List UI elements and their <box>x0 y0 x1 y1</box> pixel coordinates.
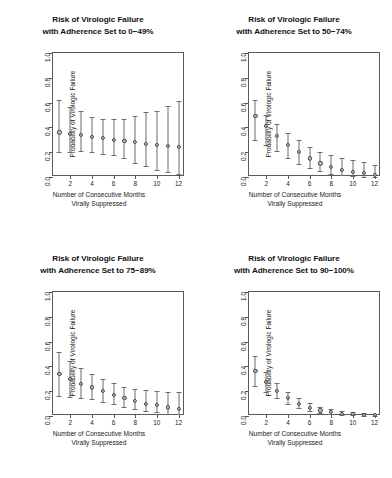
x-axis-tick <box>92 414 93 418</box>
x-axis-tick <box>331 175 332 179</box>
error-bar-cap-upper <box>68 107 73 108</box>
error-bar-cap-lower <box>100 154 105 155</box>
data-point-marker <box>297 150 301 154</box>
error-bar-cap-upper <box>122 119 127 120</box>
error-bar-cap-lower <box>79 151 84 152</box>
error-bar-cap-lower <box>100 402 105 403</box>
data-point-marker <box>286 143 290 147</box>
data-point-marker <box>155 143 159 147</box>
error-bar-cap-lower <box>329 174 334 175</box>
x-axis-tick <box>266 175 267 179</box>
data-point-marker <box>90 385 94 389</box>
error-bar-cap-lower <box>285 404 290 405</box>
error-bar-cap-upper <box>57 100 62 101</box>
error-bar-cap-lower <box>154 412 159 413</box>
error-bar-cap-upper <box>264 115 269 116</box>
error-bar-line <box>59 100 60 153</box>
error-bar-cap-upper <box>144 112 149 113</box>
data-point-marker <box>90 135 94 139</box>
error-bar-line <box>70 107 71 152</box>
data-point-marker <box>133 140 137 144</box>
x-axis-tick <box>157 414 158 418</box>
error-bar-cap-lower <box>144 166 149 167</box>
error-bar-cap-lower <box>318 171 323 172</box>
x-axis-tick <box>157 175 158 179</box>
x-axis-tick <box>70 175 71 179</box>
error-bar-cap-lower <box>68 397 73 398</box>
error-bar-cap-upper <box>165 106 170 107</box>
data-point-marker <box>111 393 115 397</box>
plot-area: Probability of Virologic Failure0.00.20.… <box>52 291 184 415</box>
error-bar-cap-upper <box>79 111 84 112</box>
error-bar-cap-upper <box>154 391 159 392</box>
error-bar-cap-lower <box>372 177 377 178</box>
error-bar-cap-lower <box>350 176 355 177</box>
error-bar-cap-lower <box>122 158 127 159</box>
plot-area: Probability of Virologic Failure0.00.20.… <box>52 52 184 176</box>
error-bar-cap-lower <box>133 409 138 410</box>
error-bar-cap-upper <box>154 111 159 112</box>
error-bar-line <box>167 392 168 414</box>
x-axis-label: Number of Consecutive Months Virally Sup… <box>197 429 392 447</box>
data-point-marker <box>57 130 61 134</box>
error-bar-cap-upper <box>133 389 138 390</box>
error-bar-cap-lower <box>253 140 258 141</box>
data-point-marker <box>57 372 61 376</box>
error-bar-cap-lower <box>275 151 280 152</box>
data-point-marker <box>122 139 126 143</box>
error-bar-cap-upper <box>340 158 345 159</box>
error-bar-cap-upper <box>100 379 105 380</box>
x-axis-tick <box>135 175 136 179</box>
data-point-marker <box>362 171 366 175</box>
error-bar-cap-lower <box>133 163 138 164</box>
panel-bottom-right: Risk of Virologic Failure with Adherence… <box>196 239 392 478</box>
error-bar-line <box>81 111 82 151</box>
panel-title: Risk of Virologic Failure with Adherence… <box>196 253 392 276</box>
error-bar-cap-upper <box>350 160 355 161</box>
error-bar-cap-upper <box>57 352 62 353</box>
panel-title: Risk of Virologic Failure with Adherence… <box>196 14 392 37</box>
error-bar-line <box>178 101 179 174</box>
panel-title: Risk of Virologic Failure with Adherence… <box>0 253 196 276</box>
x-axis-tick <box>179 175 180 179</box>
error-bar-cap-lower <box>253 386 258 387</box>
data-point-marker <box>176 406 180 410</box>
data-point-marker <box>79 382 83 386</box>
error-bar-cap-upper <box>285 392 290 393</box>
x-axis-tick <box>114 175 115 179</box>
panel-title: Risk of Virologic Failure with Adherence… <box>0 14 196 37</box>
error-bar-cap-lower <box>307 411 312 412</box>
error-bar-line <box>266 115 267 145</box>
error-bar-cap-lower <box>165 414 170 415</box>
data-point-marker <box>144 141 148 145</box>
error-bar-cap-upper <box>329 155 334 156</box>
data-point-marker <box>307 156 311 160</box>
error-bar-cap-lower <box>111 404 116 405</box>
panel-top-right: Risk of Virologic Failure with Adherence… <box>196 0 392 239</box>
data-point-marker <box>133 398 137 402</box>
error-bar-line <box>146 390 147 411</box>
error-bar-cap-upper <box>275 124 280 125</box>
error-bar-cap-lower <box>296 408 301 409</box>
error-bar-cap-upper <box>307 147 312 148</box>
data-point-marker <box>297 402 301 406</box>
error-bar-cap-lower <box>264 392 269 393</box>
error-bar-line <box>146 112 147 167</box>
x-axis-label: Number of Consecutive Months Virally Sup… <box>197 190 392 208</box>
error-bar-cap-lower <box>79 398 84 399</box>
data-point-marker <box>79 133 83 137</box>
error-bar-cap-lower <box>329 414 334 415</box>
error-bar-cap-lower <box>275 398 280 399</box>
error-bar-cap-lower <box>264 145 269 146</box>
error-bar-cap-upper <box>372 165 377 166</box>
error-bar-cap-upper <box>176 101 181 102</box>
data-point-marker <box>318 161 322 165</box>
error-bar-cap-upper <box>361 162 366 163</box>
panel-top-left: Risk of Virologic Failure with Adherence… <box>0 0 196 239</box>
error-bar-cap-upper <box>296 398 301 399</box>
error-bar-line <box>167 106 168 172</box>
error-bar-cap-upper <box>79 368 84 369</box>
error-bar-cap-lower <box>176 174 181 175</box>
error-bar-cap-upper <box>165 392 170 393</box>
error-bar-cap-lower <box>89 399 94 400</box>
